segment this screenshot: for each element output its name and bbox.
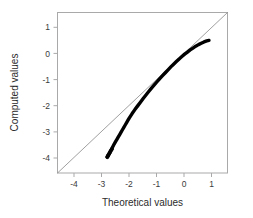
y-tick-label-0: 0 [45,49,50,59]
x-tick-label-neg2: -2 [125,179,133,189]
qq-plot-figure: 1 0 -1 -2 -3 -4 -4 -3 -2 -1 0 1 Theoreti… [0,0,253,218]
y-tick-label-1: 1 [45,22,50,32]
y-tick-label-neg4: -4 [42,153,50,163]
y-tick-label-neg3: -3 [42,127,50,137]
x-tick-label-1: 1 [209,179,214,189]
plot-canvas: 1 0 -1 -2 -3 -4 -4 -3 -2 -1 0 1 Theoreti… [0,0,253,218]
x-tick-label-0: 0 [182,179,187,189]
y-tick-label-neg2: -2 [42,101,50,111]
x-tick-label-neg3: -3 [98,179,106,189]
x-tick-label-neg1: -1 [153,179,161,189]
y-tick-label-neg1: -1 [42,75,50,85]
x-tick-label-neg4: -4 [70,179,78,189]
y-axis-title: Computed values [9,54,20,132]
x-axis-title: Theoretical values [102,197,183,208]
